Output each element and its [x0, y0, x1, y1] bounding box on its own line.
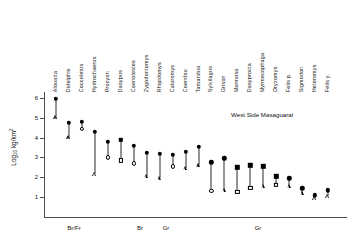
data-point-lower [80, 127, 84, 131]
y-axis-tick-label: 5 [26, 115, 38, 121]
data-point-lower [261, 184, 265, 188]
data-point-lower [66, 135, 70, 139]
y-axis-tick-label: 6 [26, 95, 38, 101]
data-point-upper [183, 149, 187, 153]
data-point-lower [312, 196, 316, 200]
data-point-upper [326, 188, 330, 192]
data-point-lower [287, 184, 291, 188]
data-range-connector [250, 165, 251, 188]
data-point-lower [235, 190, 239, 194]
data-point-upper [209, 160, 213, 164]
data-point-lower [222, 188, 226, 192]
guild-label: Br/Fr [67, 225, 80, 231]
y-axis-tick-label: 1 [26, 194, 38, 200]
data-point-upper [54, 97, 58, 101]
data-point-lower [170, 164, 174, 168]
data-point-upper [248, 163, 252, 167]
data-point-lower [183, 166, 187, 170]
data-range-connector [146, 153, 147, 177]
guild-label: Gr [163, 225, 170, 231]
data-point-upper [144, 150, 148, 154]
data-point-lower [248, 186, 252, 190]
data-point-lower [196, 163, 200, 167]
data-range-connector [224, 158, 225, 190]
guild-label: Br [137, 225, 143, 231]
site-annotation: West Side Masaguaral [231, 111, 293, 118]
y-axis-title-unit: kg/km [10, 131, 17, 148]
y-axis-title-base: Log [10, 155, 17, 166]
data-point-upper [157, 151, 161, 155]
y-axis-title-subscript: 10 [13, 150, 18, 155]
y-axis-tick [40, 118, 44, 119]
data-point-upper [235, 165, 239, 169]
y-axis-tick-label: 4 [26, 135, 38, 141]
data-point-lower [274, 183, 278, 187]
data-point-lower [157, 176, 161, 180]
data-point-upper [170, 152, 174, 156]
data-point-upper [274, 174, 278, 178]
y-axis-tick-label: 3 [26, 154, 38, 160]
data-point-upper [300, 186, 304, 190]
data-point-upper [119, 137, 123, 141]
plot-area: Log10 kg/km2 West Side Masaguaral 123456… [0, 0, 355, 243]
data-point-upper [80, 120, 84, 124]
data-point-upper [93, 129, 97, 133]
y-axis-tick [40, 98, 44, 99]
guild-label: Gr [255, 225, 262, 231]
biomass-scatter-chart: AlouattaDidelphisCoccoletusHydrochaerusP… [0, 0, 355, 243]
y-axis-tick [40, 157, 44, 158]
x-axis-line [44, 217, 347, 218]
data-point-lower [106, 155, 110, 159]
data-range-connector [211, 162, 212, 191]
data-point-upper [287, 176, 291, 180]
data-range-connector [159, 154, 160, 179]
data-point-lower [300, 191, 304, 195]
data-range-connector [237, 167, 238, 192]
y-axis-tick-label: 2 [26, 174, 38, 180]
y-axis-title-superscript: 2 [9, 128, 14, 131]
data-point-lower [53, 115, 57, 119]
y-axis-line [44, 92, 45, 218]
y-axis-tick [40, 197, 44, 198]
data-point-upper [67, 121, 71, 125]
data-point-upper [132, 143, 136, 147]
data-point-lower [209, 189, 213, 193]
y-axis-title: Log10 kg/km2 [9, 112, 17, 182]
data-point-lower [92, 172, 96, 176]
data-point-upper [261, 164, 265, 168]
data-point-upper [222, 156, 226, 160]
data-range-connector [120, 140, 121, 161]
y-axis-tick [40, 138, 44, 139]
data-range-connector [94, 132, 95, 175]
data-point-lower [132, 161, 136, 165]
data-point-lower [119, 158, 123, 162]
data-point-lower [325, 194, 329, 198]
y-axis-tick [40, 177, 44, 178]
data-point-lower [144, 174, 148, 178]
data-point-upper [196, 144, 200, 148]
data-point-upper [106, 139, 110, 143]
